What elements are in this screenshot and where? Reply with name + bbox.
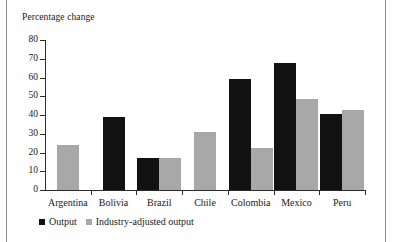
bar-output [274,63,296,191]
x-axis-category-label: Argentina [45,197,91,209]
y-axis-tick-label-wrap: 40 [10,110,38,120]
bar-industry-adjusted-output [57,145,79,190]
y-axis-tick-label: 50 [16,91,38,101]
bar-industry-adjusted-output [296,99,318,190]
legend-swatch-icon [39,219,45,225]
y-axis-tick-label-wrap: 70 [10,54,38,64]
y-axis-tick [40,190,46,191]
x-axis-separator-tick [365,190,366,195]
x-axis-separator-tick [136,190,137,195]
x-axis-category-label: Chile [182,197,228,209]
legend-item: Output [39,216,77,227]
legend-item-label: Industry-adjusted output [96,216,194,227]
y-axis-tick-label: 30 [16,129,38,139]
y-axis-tick-label: 40 [16,110,38,120]
x-axis-separator-tick [182,190,183,195]
x-axis-category-label: Mexico [274,197,320,209]
x-axis-category-label: Brazil [136,197,182,209]
y-axis-tick-label-wrap: 20 [10,148,38,158]
y-axis-tick-label-wrap: 30 [10,129,38,139]
x-axis-category-label: Bolivia [91,197,137,209]
figure-left-rule [6,0,7,242]
x-axis-spine [45,190,366,191]
y-axis-tick-label-wrap: 10 [10,166,38,176]
x-axis-category-label: Peru [319,197,365,209]
legend-item-label: Output [49,216,77,227]
bar-industry-adjusted-output [159,158,181,190]
bar-output [103,117,125,190]
legend-swatch-icon [86,219,92,225]
x-axis-separator-tick [319,190,320,195]
y-axis-tick-label-wrap: 0 [10,185,38,195]
y-axis-tick-label-wrap: 50 [10,91,38,101]
x-axis-category-label: Colombia [228,197,274,209]
y-axis-tick-label: 80 [16,35,38,45]
y-axis-tick-label-wrap: 80 [10,35,38,45]
figure-container: Percentage change 01020304050607080 Arge… [0,0,393,242]
y-axis-tick-label: 70 [16,54,38,64]
x-axis-separator-tick [228,190,229,195]
y-axis-tick-label-wrap: 60 [10,73,38,83]
legend-item: Industry-adjusted output [86,216,194,227]
y-axis-tick-label: 0 [16,185,38,195]
bar-industry-adjusted-output [342,110,364,190]
x-axis-separator-tick [91,190,92,195]
chart-legend: OutputIndustry-adjusted output [39,216,194,227]
y-axis-tick-label: 10 [16,166,38,176]
plot-area [45,40,365,190]
bar-output [229,79,251,190]
y-axis-tick-label: 20 [16,148,38,158]
bar-industry-adjusted-output [251,148,273,190]
bar-output [137,158,159,190]
y-axis-caption: Percentage change [22,12,95,22]
figure-right-rule [385,0,386,242]
bar-output [320,114,342,190]
x-axis-separator-tick [274,190,275,195]
bar-industry-adjusted-output [194,132,216,190]
y-axis-tick-label: 60 [16,73,38,83]
